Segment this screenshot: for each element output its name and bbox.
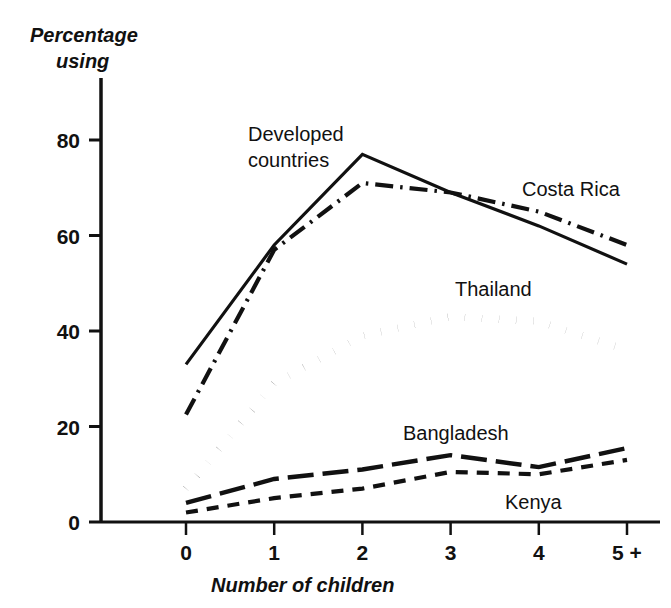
x-tick-label: 3 [445,541,457,564]
x-tick-label: 1 [268,541,280,564]
x-axis-title: Number of children [211,574,394,596]
series-label-developed-countries-line2: countries [248,149,329,171]
series-label-thailand: Thailand [455,278,532,300]
x-tick-label: 0 [180,541,192,564]
y-tick-label: 0 [68,511,80,534]
y-tick-label: 60 [57,225,80,248]
chart-container: Percentage using 020406080 012345 + Numb… [0,0,671,608]
y-axis-title-line1: Percentage [30,24,138,46]
x-tick-label: 5 + [612,541,642,564]
series-paths [186,154,627,512]
y-tick-label: 80 [57,129,80,152]
line-chart: Percentage using 020406080 012345 + Numb… [0,0,671,608]
series-label-bangladesh: Bangladesh [403,422,509,444]
y-tick-label: 40 [57,320,80,343]
y-axis-ticks: 020406080 [57,129,101,534]
x-tick-label: 4 [533,541,545,564]
y-tick-label: 20 [57,416,80,439]
series-label-costa-rica: Costa Rica [522,178,621,200]
series-label-kenya: Kenya [505,491,563,513]
series-line-costa-rica [186,183,627,415]
x-tick-label: 2 [357,541,369,564]
x-axis-ticks: 012345 + [180,522,642,564]
y-axis-title-line2: using [56,50,109,72]
series-label-developed-countries-line1: Developed [248,123,344,145]
